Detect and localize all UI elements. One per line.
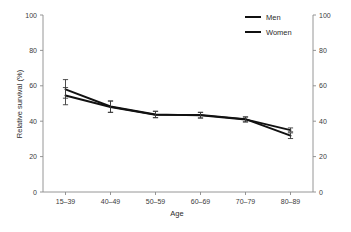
- right-axis-tick-label: 20: [319, 153, 327, 160]
- left-axis-tick-label: 60: [29, 82, 37, 89]
- x-axis-category-label: 15–39: [56, 198, 76, 205]
- left-axis: 020406080100: [25, 12, 43, 196]
- right-axis-tick-label: 80: [319, 47, 327, 54]
- left-axis-tick-label: 40: [29, 118, 37, 125]
- x-axis-category-label: 50–59: [146, 198, 166, 205]
- right-axis-tick-label: 100: [319, 12, 331, 19]
- left-axis-tick-label: 0: [33, 189, 37, 196]
- left-axis-tick-label: 20: [29, 153, 37, 160]
- right-axis-tick-label: 0: [319, 189, 323, 196]
- right-axis: 020406080100: [313, 12, 331, 196]
- legend-label-men: Men: [266, 13, 281, 22]
- right-axis-tick-label: 60: [319, 82, 327, 89]
- left-axis-tick-label: 80: [29, 47, 37, 54]
- chart-legend: MenWomen: [245, 13, 292, 37]
- bottom-axis: 15–3940–4950–5960–6970–7980–89: [43, 192, 313, 205]
- x-axis-category-label: 60–69: [191, 198, 211, 205]
- legend-label-women: Women: [266, 28, 292, 37]
- left-axis-tick-label: 100: [25, 12, 37, 19]
- error-bars-group: [63, 80, 293, 139]
- y-axis-title: Relative survival (%): [15, 69, 24, 138]
- right-axis-tick-label: 40: [319, 118, 327, 125]
- data-series-group: [66, 89, 291, 135]
- x-axis-category-label: 40–49: [101, 198, 121, 205]
- chart-figure: 020406080100 020406080100 15–3940–4950–5…: [0, 0, 351, 232]
- x-axis-category-label: 80–89: [281, 198, 301, 205]
- x-axis-category-label: 70–79: [236, 198, 256, 205]
- x-axis-title: Age: [170, 209, 183, 218]
- relative-survival-line-chart: 020406080100 020406080100 15–3940–4950–5…: [0, 0, 351, 232]
